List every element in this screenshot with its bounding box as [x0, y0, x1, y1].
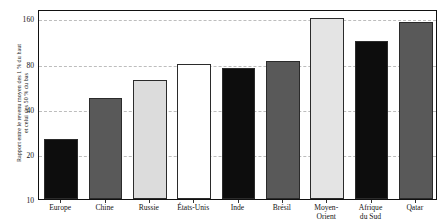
bar-moyen--orient[interactable] [310, 18, 344, 199]
x-tick-label-chine: Chine [82, 203, 126, 212]
y-tick-label-10: 10 [14, 196, 34, 205]
x-tick-label-inde: Inde [215, 203, 259, 212]
bar-chine[interactable] [89, 98, 123, 199]
y-tick-label-80: 80 [14, 60, 34, 69]
bar-afrique-du sud[interactable] [355, 41, 389, 199]
x-tick-label-europe: Europe [38, 203, 82, 212]
plot-inner [39, 11, 436, 199]
bar-europe[interactable] [44, 139, 78, 199]
y-tick-label-160: 160 [14, 15, 34, 24]
x-tick-label-afrique-du sud: Afrique du Sud [348, 203, 392, 221]
bar-inde[interactable] [222, 68, 256, 199]
x-tick-label-moyen--orient: Moyen- Orient [304, 203, 348, 221]
bar-brésil[interactable] [266, 61, 300, 199]
x-tick-label-brésil: Brésil [260, 203, 304, 212]
x-tick-label-états-unis: États-Unis [171, 203, 215, 212]
y-tick-label-20: 20 [14, 150, 34, 159]
x-tick-label-qatar: Qatar [393, 203, 437, 212]
x-tick-label-russie: Russie [127, 203, 171, 212]
bar-qatar[interactable] [399, 22, 433, 199]
plot-area [38, 10, 437, 200]
y-axis-tick-labels: 10204080160 [12, 0, 34, 222]
bar-chart: Rapport entre le revenu moyen des 1 % du… [0, 0, 443, 222]
bar-russie[interactable] [133, 80, 167, 199]
y-tick-label-40: 40 [14, 105, 34, 114]
x-axis-tick-labels: EuropeChineRussieÉtats-UnisIndeBrésilMoy… [38, 203, 437, 222]
bar-états-unis[interactable] [177, 64, 211, 199]
bars-group [39, 11, 436, 199]
